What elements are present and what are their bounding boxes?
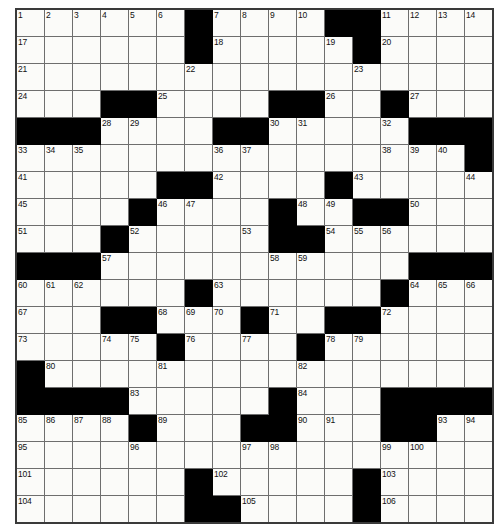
crossword-cell[interactable]: 1: [16, 9, 45, 37]
crossword-cell[interactable]: 4: [101, 9, 129, 37]
crossword-grid[interactable]: 1234567891011121314171819202122232425262…: [15, 8, 494, 524]
crossword-cell[interactable]: 60: [16, 280, 45, 307]
crossword-cell[interactable]: [101, 442, 129, 469]
crossword-cell[interactable]: [297, 307, 325, 334]
crossword-cell[interactable]: [213, 442, 241, 469]
crossword-cell[interactable]: [353, 253, 381, 280]
crossword-cell[interactable]: 100: [409, 442, 437, 469]
crossword-cell[interactable]: 94: [465, 415, 494, 442]
crossword-cell[interactable]: [353, 145, 381, 172]
crossword-cell[interactable]: 28: [101, 118, 129, 145]
crossword-cell[interactable]: 51: [16, 226, 45, 253]
crossword-cell[interactable]: [409, 307, 437, 334]
crossword-cell[interactable]: [45, 226, 73, 253]
crossword-cell[interactable]: [213, 226, 241, 253]
crossword-cell[interactable]: [241, 253, 269, 280]
crossword-cell[interactable]: [297, 64, 325, 91]
crossword-cell[interactable]: 44: [465, 172, 494, 199]
crossword-cell[interactable]: [73, 37, 101, 64]
crossword-cell[interactable]: 77: [241, 334, 269, 361]
crossword-cell[interactable]: [185, 415, 213, 442]
crossword-cell[interactable]: 10: [297, 9, 325, 37]
crossword-cell[interactable]: [241, 469, 269, 496]
crossword-cell[interactable]: 6: [157, 9, 185, 37]
crossword-cell[interactable]: [241, 361, 269, 388]
crossword-cell[interactable]: 86: [45, 415, 73, 442]
crossword-cell[interactable]: [101, 37, 129, 64]
crossword-cell[interactable]: [45, 64, 73, 91]
crossword-cell[interactable]: [157, 388, 185, 415]
crossword-cell[interactable]: 88: [101, 415, 129, 442]
crossword-cell[interactable]: [325, 361, 353, 388]
crossword-cell[interactable]: 93: [437, 415, 465, 442]
crossword-cell[interactable]: 24: [16, 91, 45, 118]
crossword-cell[interactable]: 73: [16, 334, 45, 361]
crossword-cell[interactable]: 68: [157, 307, 185, 334]
crossword-cell[interactable]: [241, 37, 269, 64]
crossword-cell[interactable]: 104: [16, 496, 45, 524]
crossword-cell[interactable]: [129, 145, 157, 172]
crossword-cell[interactable]: [101, 145, 129, 172]
crossword-cell[interactable]: [325, 280, 353, 307]
crossword-cell[interactable]: 96: [129, 442, 157, 469]
crossword-cell[interactable]: [45, 334, 73, 361]
crossword-cell[interactable]: 14: [465, 9, 494, 37]
crossword-cell[interactable]: [101, 172, 129, 199]
crossword-cell[interactable]: [269, 172, 297, 199]
crossword-cell[interactable]: 47: [185, 199, 213, 226]
crossword-cell[interactable]: [213, 361, 241, 388]
crossword-cell[interactable]: [297, 172, 325, 199]
crossword-cell[interactable]: 56: [381, 226, 409, 253]
crossword-cell[interactable]: [353, 280, 381, 307]
crossword-cell[interactable]: [325, 145, 353, 172]
crossword-cell[interactable]: 53: [241, 226, 269, 253]
crossword-cell[interactable]: [437, 361, 465, 388]
crossword-cell[interactable]: 82: [297, 361, 325, 388]
crossword-cell[interactable]: 30: [269, 118, 297, 145]
crossword-cell[interactable]: [325, 118, 353, 145]
crossword-cell[interactable]: 23: [353, 64, 381, 91]
crossword-cell[interactable]: [409, 226, 437, 253]
crossword-cell[interactable]: [73, 307, 101, 334]
crossword-cell[interactable]: [157, 145, 185, 172]
crossword-cell[interactable]: 36: [213, 145, 241, 172]
crossword-cell[interactable]: [101, 496, 129, 524]
crossword-cell[interactable]: [353, 91, 381, 118]
crossword-cell[interactable]: [409, 361, 437, 388]
crossword-cell[interactable]: [45, 496, 73, 524]
crossword-cell[interactable]: [129, 496, 157, 524]
crossword-cell[interactable]: [213, 415, 241, 442]
crossword-cell[interactable]: [157, 280, 185, 307]
crossword-cell[interactable]: [269, 145, 297, 172]
crossword-cell[interactable]: 35: [73, 145, 101, 172]
crossword-cell[interactable]: 79: [353, 334, 381, 361]
crossword-cell[interactable]: [353, 415, 381, 442]
crossword-cell[interactable]: [465, 496, 494, 524]
crossword-cell[interactable]: 25: [157, 91, 185, 118]
crossword-cell[interactable]: 58: [269, 253, 297, 280]
crossword-cell[interactable]: 50: [409, 199, 437, 226]
crossword-cell[interactable]: 32: [381, 118, 409, 145]
crossword-cell[interactable]: [269, 469, 297, 496]
crossword-cell[interactable]: 2: [45, 9, 73, 37]
crossword-cell[interactable]: 67: [16, 307, 45, 334]
crossword-cell[interactable]: [73, 91, 101, 118]
crossword-cell[interactable]: [297, 37, 325, 64]
crossword-cell[interactable]: [409, 37, 437, 64]
crossword-cell[interactable]: [73, 199, 101, 226]
crossword-cell[interactable]: 37: [241, 145, 269, 172]
crossword-cell[interactable]: 5: [129, 9, 157, 37]
crossword-cell[interactable]: 81: [157, 361, 185, 388]
crossword-cell[interactable]: [437, 91, 465, 118]
crossword-cell[interactable]: [437, 469, 465, 496]
crossword-cell[interactable]: [213, 64, 241, 91]
crossword-cell[interactable]: [381, 253, 409, 280]
crossword-cell[interactable]: 61: [45, 280, 73, 307]
crossword-cell[interactable]: [269, 496, 297, 524]
crossword-cell[interactable]: 38: [381, 145, 409, 172]
crossword-cell[interactable]: [241, 91, 269, 118]
crossword-cell[interactable]: [73, 172, 101, 199]
crossword-cell[interactable]: [213, 253, 241, 280]
crossword-cell[interactable]: [325, 388, 353, 415]
crossword-cell[interactable]: 97: [241, 442, 269, 469]
